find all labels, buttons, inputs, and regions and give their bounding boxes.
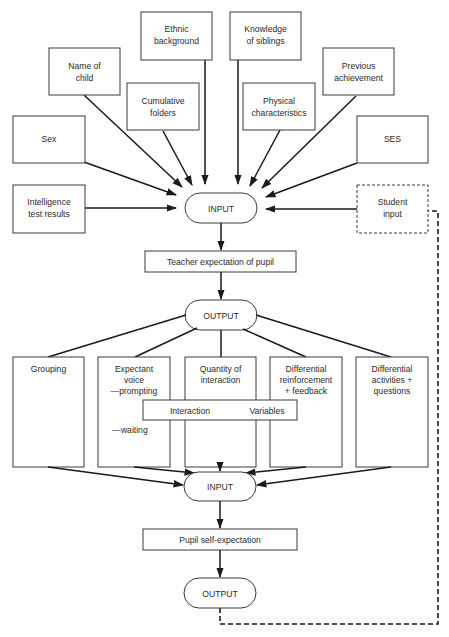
- svg-text:Name of: Name of: [68, 61, 101, 71]
- input-connectors: [84, 60, 357, 209]
- svg-text:+ feedback: + feedback: [285, 386, 328, 396]
- svg-text:test results: test results: [28, 209, 70, 219]
- svg-text:Differential: Differential: [286, 364, 327, 374]
- svg-text:OUTPUT: OUTPUT: [203, 311, 239, 321]
- svg-text:Pupil self-expectation: Pupil self-expectation: [179, 535, 261, 545]
- svg-text:Quantity of: Quantity of: [200, 364, 242, 374]
- svg-text:interaction: interaction: [201, 375, 241, 385]
- svg-text:OUTPUT: OUTPUT: [202, 589, 238, 599]
- interaction-variables-band: Interaction Variables: [143, 400, 297, 420]
- input-box-sex: Sex: [13, 116, 85, 163]
- svg-text:Sex: Sex: [42, 134, 58, 144]
- input-box-name-of-child: Name of child: [49, 48, 120, 95]
- svg-text:Ethnic: Ethnic: [165, 24, 190, 34]
- variable-box-differential-activities: Differential activities + questions: [356, 357, 428, 467]
- svg-text:Variables: Variables: [249, 406, 284, 416]
- input-box-ses: SES: [357, 116, 428, 163]
- input-box-previous-achievement: Previous achievement: [323, 48, 394, 95]
- svg-text:INPUT: INPUT: [207, 482, 234, 492]
- svg-text:Interaction: Interaction: [170, 406, 210, 416]
- svg-text:Knowledge: Knowledge: [244, 24, 287, 34]
- svg-text:of siblings: of siblings: [246, 36, 284, 46]
- input-node-teacher: INPUT: [185, 193, 257, 223]
- svg-text:Intelligence: Intelligence: [27, 197, 71, 207]
- svg-text:Student: Student: [378, 197, 408, 207]
- svg-text:Differential: Differential: [372, 364, 413, 374]
- teacher-expectation-flow-diagram: Ethnic background Knowledge of siblings …: [0, 0, 449, 637]
- input-box-ethnic-background: Ethnic background: [141, 12, 212, 60]
- svg-text:reinforcement: reinforcement: [280, 375, 333, 385]
- svg-text:background: background: [154, 36, 199, 46]
- svg-text:—prompting: —prompting: [111, 386, 158, 396]
- svg-text:voice: voice: [124, 375, 144, 385]
- variable-box-grouping: Grouping: [13, 357, 84, 467]
- svg-text:activities +: activities +: [372, 375, 412, 385]
- input-box-knowledge-of-siblings: Knowledge of siblings: [230, 12, 301, 60]
- svg-text:Physical: Physical: [263, 96, 295, 106]
- svg-text:questions: questions: [374, 386, 411, 396]
- pupil-self-expectation-box: Pupil self-expectation: [143, 529, 297, 550]
- output-node-pupil: OUTPUT: [184, 578, 256, 608]
- input-box-student-input: Student input: [357, 185, 428, 233]
- svg-text:Teacher expectation of pupil: Teacher expectation of pupil: [167, 257, 274, 267]
- output-node-teacher: OUTPUT: [185, 300, 257, 330]
- svg-text:child: child: [76, 73, 94, 83]
- input-box-intelligence-test-results: Intelligence test results: [13, 185, 85, 233]
- svg-text:Grouping: Grouping: [31, 364, 67, 374]
- svg-text:Expectant: Expectant: [115, 364, 154, 374]
- input-node-pupil: INPUT: [184, 472, 256, 501]
- svg-text:achievement: achievement: [334, 73, 383, 83]
- svg-text:Previous: Previous: [342, 61, 375, 71]
- svg-text:characteristics: characteristics: [252, 108, 307, 118]
- expectant-waiting-label: —waiting: [112, 425, 148, 435]
- svg-text:Cumulative: Cumulative: [142, 96, 185, 106]
- svg-text:SES: SES: [384, 134, 401, 144]
- input-box-physical-characteristics: Physical characteristics: [243, 83, 315, 130]
- svg-text:INPUT: INPUT: [208, 204, 235, 214]
- input-box-cumulative-folders: Cumulative folders: [127, 83, 199, 130]
- svg-text:folders: folders: [150, 108, 176, 118]
- teacher-expectation-box: Teacher expectation of pupil: [145, 251, 296, 272]
- svg-text:input: input: [383, 209, 402, 219]
